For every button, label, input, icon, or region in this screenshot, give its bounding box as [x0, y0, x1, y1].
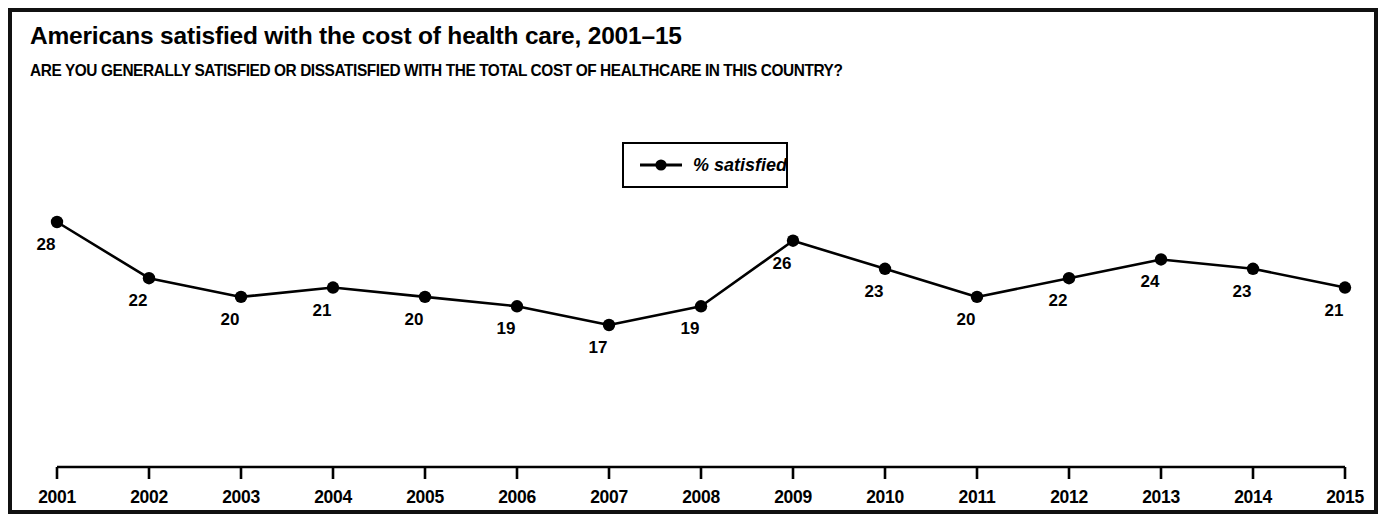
x-axis-tick-label: 2007 [590, 489, 628, 507]
data-point-label: 17 [589, 339, 608, 356]
data-point-marker [603, 319, 615, 331]
chart-legend: % satisfied [622, 142, 788, 188]
data-point-label: 20 [221, 311, 240, 328]
data-point-marker [1339, 281, 1351, 293]
data-point-marker [327, 281, 339, 293]
plot-area: 282220212019171926232022242321 200120022… [0, 0, 1386, 522]
data-point-label: 20 [957, 311, 976, 328]
x-axis-tick-label: 2011 [959, 489, 996, 507]
data-point-label: 24 [1141, 273, 1160, 290]
data-point-label: 26 [773, 255, 792, 272]
data-point-marker [879, 263, 891, 275]
data-point-marker [51, 216, 63, 228]
data-point-label: 19 [681, 320, 700, 337]
x-axis-tick-label: 2010 [866, 489, 904, 507]
data-point-marker [787, 235, 799, 247]
x-axis-tick-label: 2005 [406, 489, 444, 507]
data-point-label: 23 [865, 283, 884, 300]
legend-entry-percent-satisfied: % satisfied [624, 144, 786, 186]
legend-label: % satisfied [693, 156, 787, 174]
x-axis-tick-label: 2001 [38, 489, 76, 507]
data-point-label: 22 [1049, 292, 1068, 309]
data-point-marker [143, 272, 155, 284]
x-axis-tick-label: 2013 [1142, 489, 1180, 507]
data-point-label: 23 [1233, 283, 1252, 300]
data-point-marker [511, 300, 523, 312]
x-axis [57, 467, 1345, 479]
x-axis-tick-label: 2006 [498, 489, 536, 507]
x-axis-tick-label: 2008 [682, 489, 720, 507]
data-point-marker [971, 291, 983, 303]
x-axis-tick-label: 2004 [314, 489, 352, 507]
data-point-marker [1155, 253, 1167, 265]
data-point-label: 21 [313, 302, 332, 319]
x-axis-tick-label: 2003 [222, 489, 260, 507]
data-point-label: 28 [37, 236, 56, 253]
data-point-marker [1247, 263, 1259, 275]
data-point-label: 19 [497, 320, 516, 337]
x-axis-ticks [57, 467, 1345, 479]
data-point-marker [1063, 272, 1075, 284]
data-point-label: 21 [1325, 302, 1344, 319]
data-point-marker [695, 300, 707, 312]
data-point-label: 20 [405, 311, 424, 328]
line-chart-svg [0, 0, 1386, 522]
data-point-marker [419, 291, 431, 303]
legend-line-marker-icon [638, 157, 684, 173]
data-point-marker [235, 291, 247, 303]
x-axis-tick-label: 2014 [1234, 489, 1272, 507]
x-axis-tick-label: 2015 [1326, 489, 1364, 507]
chart-figure: Americans satisfied with the cost of hea… [0, 0, 1386, 522]
x-axis-tick-label: 2002 [130, 489, 168, 507]
data-point-label: 22 [129, 292, 148, 309]
x-axis-tick-label: 2012 [1050, 489, 1088, 507]
x-axis-tick-label: 2009 [774, 489, 812, 507]
